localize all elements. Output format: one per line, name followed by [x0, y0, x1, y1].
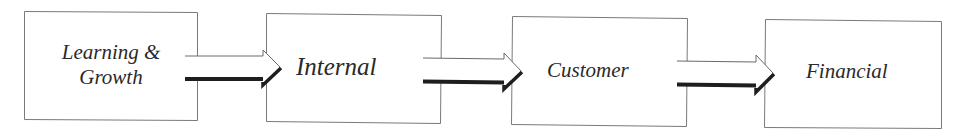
flow-diagram: Learning & Growth Internal Customer Fina… [0, 0, 957, 138]
node-label-customer: Customer [547, 58, 643, 83]
node-label-learning-growth: Learning & Growth [24, 40, 198, 90]
node-label-line2: Growth [24, 65, 198, 90]
node-label-financial: Financial [806, 59, 902, 84]
block-arrow-right-icon [677, 55, 774, 92]
node-label-internal: Internal [296, 52, 394, 82]
block-arrow-right-icon [423, 53, 522, 89]
node-label-line1: Learning & [24, 40, 198, 65]
block-arrow-right-icon [185, 50, 281, 85]
